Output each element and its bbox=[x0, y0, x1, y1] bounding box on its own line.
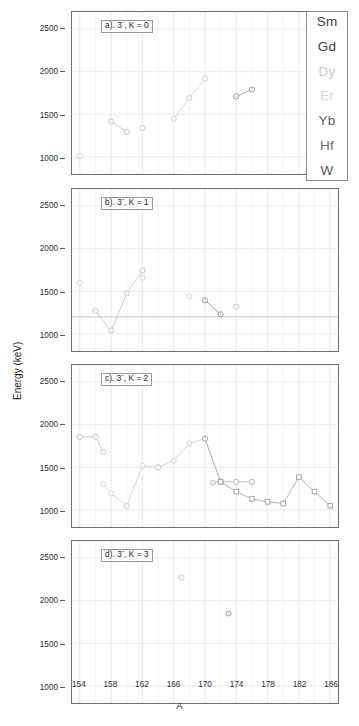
series-hf bbox=[234, 304, 239, 309]
panel-b-label: b). 3-, K = 1 bbox=[101, 197, 153, 210]
y-tick-label: 2500 bbox=[40, 201, 58, 210]
y-tick-mark bbox=[60, 468, 65, 469]
data-point-center bbox=[79, 282, 80, 283]
gridlines bbox=[72, 12, 338, 174]
y-tick-mark bbox=[60, 158, 65, 159]
panel-a: a). 3-, K = 0 bbox=[71, 11, 339, 175]
y-tick-label: 1000 bbox=[40, 330, 58, 339]
data-point-center bbox=[126, 293, 127, 294]
legend-item-sm: Sm bbox=[307, 15, 347, 29]
panel-a-plot bbox=[72, 12, 338, 174]
data-point bbox=[281, 501, 286, 506]
legend-item-yb: Yb bbox=[307, 114, 347, 128]
y-tick-mark bbox=[60, 292, 65, 293]
series-yb bbox=[202, 436, 223, 484]
x-tick-label: 154 bbox=[72, 680, 86, 689]
data-point-center bbox=[228, 613, 229, 614]
data-point-center bbox=[173, 118, 174, 119]
data-point-center bbox=[111, 330, 112, 331]
y-tick-mark bbox=[60, 248, 65, 249]
y-tick-label: 2500 bbox=[40, 553, 58, 562]
y-tick-label: 2000 bbox=[40, 596, 58, 605]
data-point-center bbox=[142, 270, 143, 271]
x-tick-label: 158 bbox=[104, 680, 118, 689]
data-point-center bbox=[126, 506, 127, 507]
data-point-center bbox=[189, 443, 190, 444]
y-tick-label: 1500 bbox=[40, 463, 58, 472]
y-axis-labels: 2500200015001000250020001500100025002000… bbox=[0, 0, 71, 726]
data-point bbox=[297, 475, 302, 480]
data-point bbox=[234, 489, 239, 494]
data-point-center bbox=[111, 121, 112, 122]
y-tick-label: 2500 bbox=[40, 377, 58, 386]
y-tick-label: 1500 bbox=[40, 287, 58, 296]
y-tick-label: 2500 bbox=[40, 24, 58, 33]
series-er bbox=[179, 575, 184, 580]
data-point-center bbox=[111, 493, 112, 494]
data-point-center bbox=[158, 467, 159, 468]
y-axis-title: Energy (keV) bbox=[12, 342, 23, 400]
panel-a-label: a). 3-, K = 0 bbox=[101, 20, 153, 33]
y-tick-label: 2000 bbox=[40, 67, 58, 76]
x-tick-label: 186 bbox=[324, 680, 338, 689]
data-point-center bbox=[103, 451, 104, 452]
data-point-center bbox=[79, 156, 80, 157]
legend-item-er: Er bbox=[307, 89, 347, 103]
data-point bbox=[265, 500, 270, 505]
data-point-center bbox=[173, 460, 174, 461]
series-dy bbox=[140, 125, 145, 130]
data-point-center bbox=[236, 481, 237, 482]
panel-b: b). 3-, K = 1 bbox=[71, 188, 339, 352]
panel-c: c). 3-, K = 2 bbox=[71, 364, 339, 528]
data-point bbox=[218, 480, 223, 485]
series-sm bbox=[77, 434, 106, 454]
x-axis-labels: 154158162166170174178182186 bbox=[71, 676, 339, 698]
y-tick-mark bbox=[60, 115, 65, 116]
series-er bbox=[155, 436, 207, 470]
legend-item-gd: Gd bbox=[307, 40, 347, 54]
data-point-center bbox=[79, 437, 80, 438]
y-tick-label: 2000 bbox=[40, 244, 58, 253]
y-tick-mark bbox=[60, 600, 65, 601]
data-point-center bbox=[251, 89, 252, 90]
panel-c-plot bbox=[72, 365, 338, 527]
y-tick-mark bbox=[60, 511, 65, 512]
series-er bbox=[187, 294, 192, 299]
data-point-center bbox=[251, 481, 252, 482]
data-point-center bbox=[142, 277, 143, 278]
data-point-center bbox=[142, 127, 143, 128]
y-tick-mark bbox=[60, 205, 65, 206]
data-point-center bbox=[236, 306, 237, 307]
series-hf bbox=[210, 479, 254, 485]
data-point-center bbox=[95, 310, 96, 311]
figure-4-panel-energy-vs-mass: 2500200015001000250020001500100025002000… bbox=[0, 0, 359, 726]
data-point-center bbox=[204, 300, 205, 301]
series-dy bbox=[140, 275, 145, 280]
y-tick-label: 1500 bbox=[40, 110, 58, 119]
y-tick-mark bbox=[60, 381, 65, 382]
x-tick-label: 182 bbox=[293, 680, 307, 689]
legend-item-w: W bbox=[307, 164, 347, 178]
y-tick-label: 1500 bbox=[40, 639, 58, 648]
x-axis-title: A bbox=[0, 700, 359, 711]
panel-d-label: d). 3-, K = 3 bbox=[101, 549, 153, 562]
data-point-center bbox=[212, 482, 213, 483]
series-yb bbox=[202, 298, 223, 317]
y-tick-mark bbox=[60, 28, 65, 29]
data-point-center bbox=[189, 98, 190, 99]
panel-b-plot bbox=[72, 189, 338, 351]
gridlines bbox=[72, 365, 338, 527]
data-point bbox=[250, 497, 255, 502]
data-point-center bbox=[95, 436, 96, 437]
x-tick-label: 170 bbox=[198, 680, 212, 689]
y-tick-mark bbox=[60, 557, 65, 558]
series-sm bbox=[77, 280, 82, 285]
y-tick-mark bbox=[60, 644, 65, 645]
data-point-center bbox=[126, 131, 127, 132]
data-point-center bbox=[204, 78, 205, 79]
data-point bbox=[328, 503, 333, 508]
data-point-center bbox=[142, 465, 143, 466]
series-yb bbox=[234, 87, 255, 99]
series-sm bbox=[77, 154, 82, 159]
y-tick-mark bbox=[60, 71, 65, 72]
